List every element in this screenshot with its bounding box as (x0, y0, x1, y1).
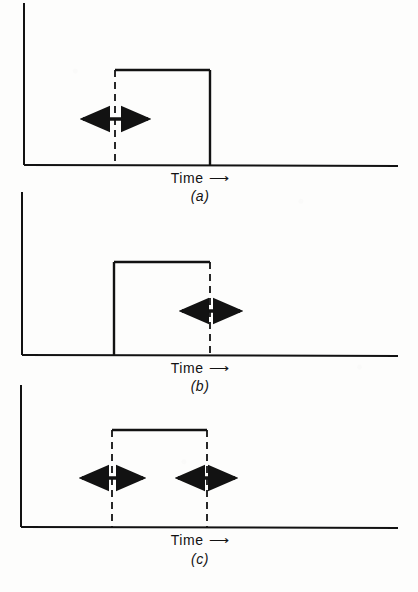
panel-a-time-label: Time (171, 170, 204, 186)
panel-a-time-caption: Time ⟶ (140, 170, 260, 186)
panel-c-letter-text: (c) (191, 551, 209, 567)
time-axis (24, 165, 398, 166)
panel-c-letter: (c) (150, 551, 250, 567)
arrow-right-icon: ⟶ (209, 170, 230, 186)
arrow-right-icon: ⟶ (209, 360, 230, 376)
panel-b: Time ⟶ (b) (0, 186, 418, 386)
time-axis (22, 355, 398, 356)
panel-c: Time ⟶ (c) (0, 380, 418, 592)
pulse-timing-figure: Time ⟶ (a) (0, 0, 418, 592)
arrow-right-icon: ⟶ (209, 532, 230, 548)
panel-b-time-caption: Time ⟶ (140, 360, 260, 376)
panel-c-time-caption: Time ⟶ (140, 532, 260, 548)
panel-a: Time ⟶ (a) (0, 0, 418, 200)
panel-b-time-label: Time (171, 360, 204, 376)
panel-c-time-label: Time (171, 532, 204, 548)
panel-b-plot (0, 186, 418, 386)
time-axis (21, 527, 398, 528)
